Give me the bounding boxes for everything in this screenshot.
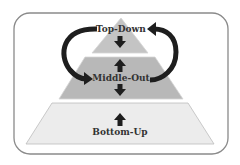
label-middle-out: Middle-Out [92,74,149,83]
pyramid-diagram: Top-Down Middle-Out Bottom-Up [0,0,240,165]
label-top-down: Top-Down [96,25,146,34]
label-bottom-up: Bottom-Up [92,128,147,137]
